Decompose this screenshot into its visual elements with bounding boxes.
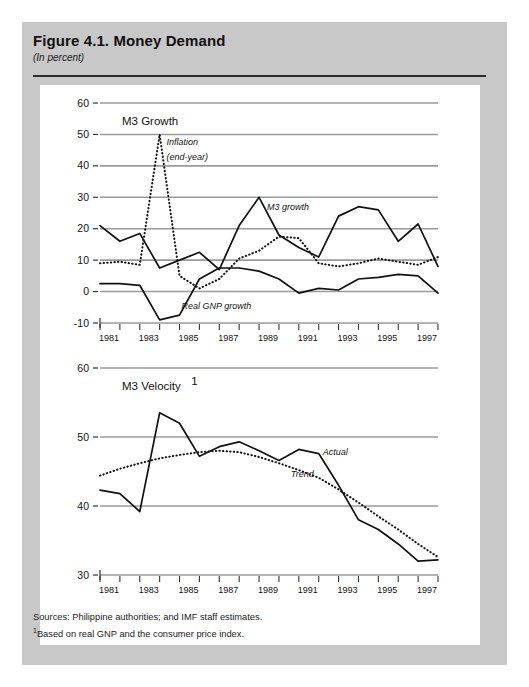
figure-page: Figure 4.1. Money Demand (In percent) -1… [0, 0, 529, 687]
annotation-m3-growth: M3 growth [267, 202, 309, 212]
ytick-label-50: 50 [77, 431, 89, 443]
ytick-label-60: 60 [77, 97, 89, 109]
xtick-label-1985: 1985 [179, 585, 199, 595]
xtick-label-1987: 1987 [218, 333, 238, 343]
chart-panel-m3-velocity: 3040506019811983198519871989199119931995… [77, 362, 438, 595]
xtick-label-1993: 1993 [338, 333, 358, 343]
xtick-label-1981: 1981 [99, 585, 119, 595]
figure-subtitle: (In percent) [33, 52, 383, 63]
xtick-label-1989: 1989 [258, 585, 278, 595]
ytick-label-60: 60 [77, 362, 89, 374]
ytick-label-20: 20 [77, 222, 89, 234]
chart-panel-m3-growth: -100102030405060198119831985198719891991… [74, 97, 438, 343]
footnote-text: Based on real GNP and the consumer price… [37, 629, 244, 639]
plot-card: -100102030405060198119831985198719891991… [40, 85, 480, 645]
sources-line-2: 1Based on real GNP and the consumer pric… [33, 624, 262, 641]
annotation-real-gnp-growth: Real GNP growth [182, 301, 252, 311]
sources-note: Sources: Philippine authorities; and IMF… [33, 611, 262, 641]
xtick-label-1987: 1987 [218, 585, 238, 595]
xtick-label-1997: 1997 [417, 333, 437, 343]
xtick-label-1985: 1985 [179, 333, 199, 343]
xtick-label-1997: 1997 [417, 585, 437, 595]
ytick-label-0: 0 [83, 285, 89, 297]
series-actual [100, 413, 438, 561]
panel-title-m3-velocity: M3 Velocity [122, 380, 181, 392]
xtick-label-1983: 1983 [139, 585, 159, 595]
ytick-label-50: 50 [77, 128, 89, 140]
header-divider [33, 75, 486, 77]
xtick-label-1995: 1995 [377, 333, 397, 343]
sources-line-1: Sources: Philippine authorities; and IMF… [33, 611, 262, 624]
xtick-label-1981: 1981 [99, 333, 119, 343]
series-real-gnp-growth [100, 268, 438, 320]
ytick-label-30: 30 [77, 569, 89, 581]
figure-header: Figure 4.1. Money Demand (In percent) [33, 32, 383, 63]
ytick-label--10: -10 [74, 317, 89, 329]
panel-title-footnote-marker: 1 [191, 375, 197, 387]
ytick-label-40: 40 [77, 500, 89, 512]
ytick-label-10: 10 [77, 254, 89, 266]
xtick-label-1991: 1991 [298, 585, 318, 595]
annotation-inflation: Inflation [167, 137, 199, 147]
xtick-label-1995: 1995 [377, 585, 397, 595]
ytick-label-40: 40 [77, 159, 89, 171]
annotation--end-year-: (end-year) [167, 152, 209, 162]
xtick-label-1991: 1991 [298, 333, 318, 343]
panel-title-m3-growth: M3 Growth [122, 115, 178, 127]
xtick-label-1983: 1983 [139, 333, 159, 343]
annotation-trend: Trend [291, 469, 315, 479]
charts-svg: -100102030405060198119831985198719891991… [40, 85, 480, 645]
series-trend [100, 451, 438, 557]
annotation-actual: Actual [322, 447, 349, 457]
ytick-label-30: 30 [77, 191, 89, 203]
xtick-label-1989: 1989 [258, 333, 278, 343]
page-title: Figure 4.1. Money Demand [33, 32, 383, 49]
xtick-label-1993: 1993 [338, 585, 358, 595]
